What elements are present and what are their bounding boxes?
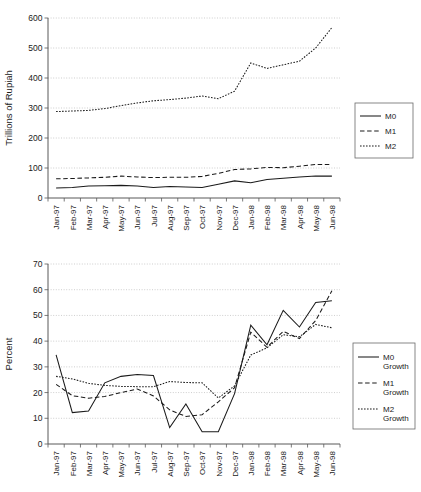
y-tick-label: 30 bbox=[33, 362, 43, 372]
y-tick-label: 70 bbox=[33, 259, 43, 269]
y-tick-label: 0 bbox=[38, 439, 43, 449]
series-line-m2-growth bbox=[56, 324, 332, 398]
x-tick-label: Jan-97 bbox=[52, 450, 61, 475]
y-tick-label: 200 bbox=[28, 133, 42, 143]
x-tick-label: Feb-97 bbox=[69, 204, 78, 230]
x-tick-label: Jun-98 bbox=[328, 204, 337, 229]
legend-label-second-line: Growth bbox=[383, 362, 409, 371]
x-tick-label: Oct-97 bbox=[198, 450, 207, 475]
x-tick-label: Aug-97 bbox=[166, 204, 175, 230]
x-tick-label: Apr-97 bbox=[101, 204, 110, 229]
y-tick-label: 50 bbox=[33, 310, 43, 320]
x-tick-label: Sep-97 bbox=[182, 450, 191, 476]
legend-label-second-line: Growth bbox=[383, 414, 409, 423]
y-tick-label: 40 bbox=[33, 336, 43, 346]
x-tick-label: Apr-97 bbox=[101, 450, 110, 475]
series-line-m0-growth bbox=[56, 301, 332, 432]
money-growth-plot: 010203040506070Jan-97Feb-97Mar-97Apr-97M… bbox=[0, 246, 421, 492]
series-line-m2 bbox=[56, 28, 332, 112]
money-levels-chart: 0100200300400500600Jan-97Feb-97Mar-97Apr… bbox=[0, 0, 421, 246]
x-tick-label: Jun-98 bbox=[328, 450, 337, 475]
x-tick-label: Jun-97 bbox=[133, 204, 142, 229]
x-tick-label: Jan-98 bbox=[247, 204, 256, 229]
x-tick-label: May-98 bbox=[312, 450, 321, 477]
x-tick-label: Oct-97 bbox=[198, 204, 207, 229]
legend-label: M1 bbox=[385, 127, 397, 136]
y-tick-label: 100 bbox=[28, 163, 42, 173]
y-tick-label: 500 bbox=[28, 43, 42, 53]
y-tick-label: 0 bbox=[38, 193, 43, 203]
legend-label: M2 bbox=[385, 142, 397, 151]
x-tick-label: Dec-97 bbox=[231, 450, 240, 476]
series-line-m1-growth bbox=[56, 291, 332, 417]
y-tick-label: 400 bbox=[28, 73, 42, 83]
y-tick-label: 60 bbox=[33, 285, 43, 295]
x-tick-label: Mar-97 bbox=[85, 450, 94, 476]
x-tick-label: Apr-98 bbox=[296, 204, 305, 229]
x-tick-label: Apr-98 bbox=[296, 450, 305, 475]
y-axis-title: Trillions of Rupiah bbox=[3, 70, 14, 146]
series-line-m0 bbox=[56, 176, 332, 188]
legend-label: M0 bbox=[385, 112, 397, 121]
x-tick-label: Mar-98 bbox=[279, 450, 288, 476]
legend-label: M0 bbox=[383, 353, 395, 362]
x-tick-label: Feb-98 bbox=[263, 204, 272, 230]
x-tick-label: Mar-97 bbox=[85, 204, 94, 230]
x-tick-label: Aug-97 bbox=[166, 450, 175, 476]
legend-label: M2 bbox=[383, 405, 395, 414]
x-tick-label: Sep-97 bbox=[182, 204, 191, 230]
x-tick-label: Jan-97 bbox=[52, 204, 61, 229]
legend-label-second-line: Growth bbox=[383, 388, 409, 397]
x-tick-label: Jul-97 bbox=[150, 450, 159, 472]
x-tick-label: Nov-97 bbox=[215, 204, 224, 230]
x-tick-label: Jul-97 bbox=[150, 204, 159, 226]
y-tick-label: 600 bbox=[28, 13, 42, 23]
x-tick-label: Jun-97 bbox=[133, 450, 142, 475]
x-tick-label: Dec-97 bbox=[231, 204, 240, 230]
y-tick-label: 10 bbox=[33, 413, 43, 423]
y-tick-label: 20 bbox=[33, 388, 43, 398]
legend-label: M1 bbox=[383, 379, 395, 388]
money-growth-chart: 010203040506070Jan-97Feb-97Mar-97Apr-97M… bbox=[0, 246, 421, 492]
x-tick-label: Mar-98 bbox=[279, 204, 288, 230]
x-tick-label: Jan-98 bbox=[247, 450, 256, 475]
y-axis-title: Percent bbox=[3, 337, 14, 370]
x-tick-label: May-97 bbox=[117, 450, 126, 477]
series-line-m1 bbox=[56, 164, 332, 178]
x-tick-label: Feb-98 bbox=[263, 450, 272, 476]
x-tick-label: Feb-97 bbox=[69, 450, 78, 476]
x-tick-label: Nov-97 bbox=[215, 450, 224, 476]
x-tick-label: May-98 bbox=[312, 204, 321, 231]
money-levels-plot: 0100200300400500600Jan-97Feb-97Mar-97Apr… bbox=[0, 0, 421, 246]
x-tick-label: May-97 bbox=[117, 204, 126, 231]
y-tick-label: 300 bbox=[28, 103, 42, 113]
